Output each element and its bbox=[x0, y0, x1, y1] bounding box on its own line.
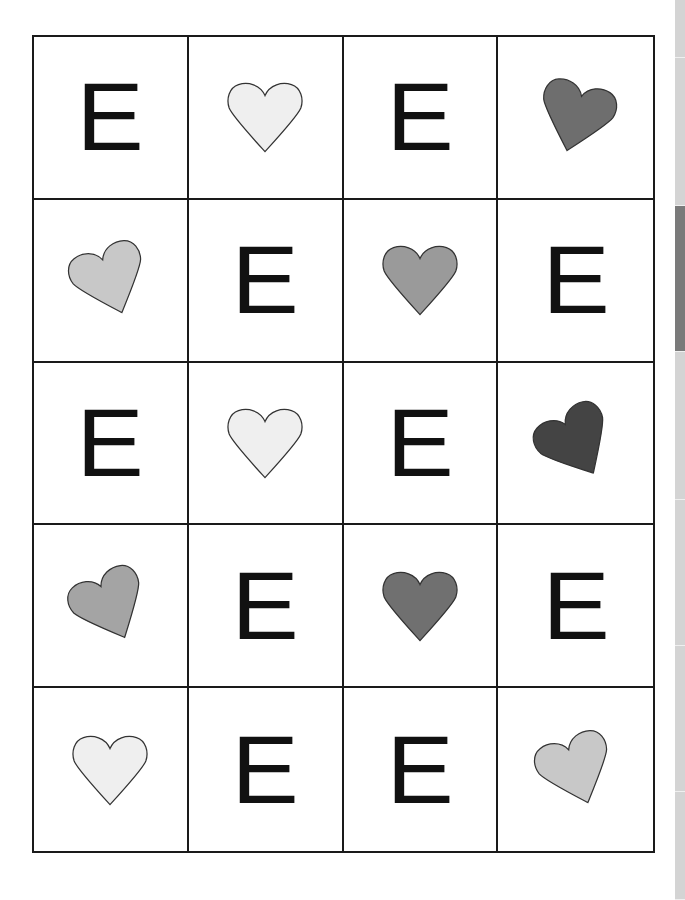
grid-cell bbox=[34, 200, 189, 363]
side-tab-6[interactable] bbox=[675, 646, 685, 792]
grid-cell bbox=[34, 688, 189, 851]
letter-e: E bbox=[232, 232, 299, 328]
side-tab-3[interactable] bbox=[675, 206, 685, 352]
heart-icon bbox=[59, 556, 161, 656]
grid-cell bbox=[344, 200, 499, 363]
grid-cell: E bbox=[189, 200, 344, 363]
grid-cell bbox=[189, 363, 344, 526]
letter-e: E bbox=[232, 722, 299, 818]
heart-icon bbox=[523, 391, 628, 494]
grid-cell: E bbox=[189, 688, 344, 851]
grid-cell: E bbox=[34, 37, 189, 200]
side-tab-7[interactable] bbox=[675, 792, 685, 900]
grid-cell: E bbox=[34, 363, 189, 526]
grid-cell bbox=[498, 688, 653, 851]
side-tab-strip bbox=[675, 0, 685, 900]
letter-e: E bbox=[386, 69, 453, 165]
side-tab-4[interactable] bbox=[675, 352, 685, 500]
grid-cell bbox=[344, 525, 499, 688]
letter-e: E bbox=[386, 395, 453, 491]
side-tab-5[interactable] bbox=[675, 500, 685, 646]
side-tab-1[interactable] bbox=[675, 0, 685, 58]
heart-icon bbox=[226, 406, 304, 480]
heart-icon bbox=[71, 733, 149, 807]
grid-cell: E bbox=[344, 363, 499, 526]
heart-icon bbox=[528, 72, 622, 164]
letter-e: E bbox=[77, 395, 144, 491]
grid-cell: E bbox=[498, 200, 653, 363]
grid-cell: E bbox=[344, 37, 499, 200]
worksheet-grid: EEEEEEEEEE bbox=[32, 35, 655, 853]
grid-cell bbox=[189, 37, 344, 200]
grid-cell: E bbox=[344, 688, 499, 851]
heart-icon bbox=[61, 232, 160, 328]
side-tab-2[interactable] bbox=[675, 58, 685, 206]
heart-icon bbox=[226, 80, 304, 154]
heart-icon bbox=[381, 569, 459, 643]
letter-e: E bbox=[77, 69, 144, 165]
letter-e: E bbox=[232, 558, 299, 654]
grid-cell bbox=[498, 37, 653, 200]
letter-e: E bbox=[542, 232, 609, 328]
letter-e: E bbox=[386, 722, 453, 818]
heart-icon bbox=[381, 243, 459, 317]
heart-icon bbox=[526, 721, 625, 817]
letter-e: E bbox=[542, 558, 609, 654]
grid-cell: E bbox=[189, 525, 344, 688]
grid-cell bbox=[498, 363, 653, 526]
grid-cell: E bbox=[498, 525, 653, 688]
grid-cell bbox=[34, 525, 189, 688]
